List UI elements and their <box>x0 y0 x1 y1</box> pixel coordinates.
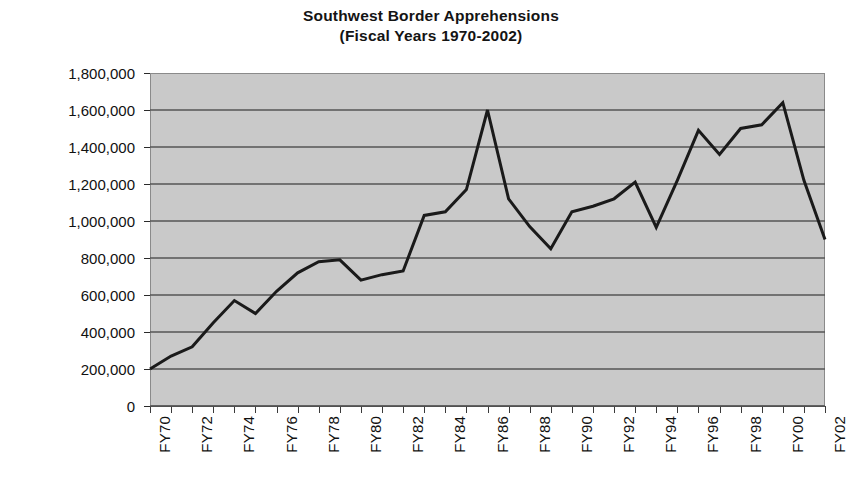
x-axis-tick-mark <box>783 406 784 413</box>
x-axis-tick-mark <box>593 406 594 413</box>
x-axis-tick-label: FY72 <box>198 416 215 453</box>
x-axis-tick-mark <box>466 406 467 413</box>
x-axis-tick-mark <box>424 406 425 413</box>
x-axis-tick-mark <box>382 406 383 413</box>
plot-canvas <box>150 73 825 406</box>
x-axis-tick-label: FY74 <box>240 416 257 453</box>
x-axis-tick-label: FY00 <box>789 416 806 453</box>
x-axis-tick-label: FY90 <box>578 416 595 453</box>
chart-figure: Southwest Border Apprehensions (Fiscal Y… <box>0 0 862 497</box>
x-axis-tick-mark <box>762 406 763 413</box>
x-axis-tick-mark <box>804 406 805 413</box>
x-axis-tick-mark <box>635 406 636 413</box>
x-axis-tick-label: FY80 <box>367 416 384 453</box>
x-axis-tick-mark <box>677 406 678 413</box>
x-axis-tick-mark <box>361 406 362 413</box>
gridlines <box>150 110 825 406</box>
x-axis-tick-mark <box>403 406 404 413</box>
x-axis-tick-label: FY92 <box>620 416 637 453</box>
x-axis-tick-label: FY02 <box>831 416 848 453</box>
x-axis-tick-label: FY88 <box>536 416 553 453</box>
x-axis-tick-mark <box>720 406 721 413</box>
x-axis-tick-mark <box>509 406 510 413</box>
x-axis-tick-mark <box>614 406 615 413</box>
x-axis-tick-mark <box>150 406 151 413</box>
x-axis-tick-mark <box>255 406 256 413</box>
data-series-line <box>150 103 825 369</box>
x-axis-tick-mark <box>698 406 699 413</box>
x-axis-tick-mark <box>825 406 826 413</box>
x-axis-tick-mark <box>234 406 235 413</box>
x-axis-tick-label: FY84 <box>451 416 468 453</box>
x-axis-tick-label: FY76 <box>283 416 300 453</box>
x-axis-tick-mark <box>192 406 193 413</box>
x-axis-tick-mark <box>319 406 320 413</box>
x-axis-tick-mark <box>741 406 742 413</box>
x-axis-tick-label: FY78 <box>325 416 342 453</box>
x-axis-tick-label: FY96 <box>704 416 721 453</box>
x-axis-tick-label: FY86 <box>494 416 511 453</box>
x-axis-tick-mark <box>445 406 446 413</box>
x-axis-tick-label: FY94 <box>662 416 679 453</box>
x-axis-tick-mark <box>213 406 214 413</box>
x-axis-tick-mark <box>298 406 299 413</box>
x-axis-tick-mark <box>488 406 489 413</box>
x-axis-tick-mark <box>551 406 552 413</box>
x-axis-tick-label: FY82 <box>409 416 426 453</box>
x-axis-tick-mark <box>340 406 341 413</box>
x-axis-tick-mark <box>656 406 657 413</box>
x-axis-tick-mark <box>171 406 172 413</box>
x-axis-tick-label: FY98 <box>747 416 764 453</box>
x-axis-tick-mark <box>277 406 278 413</box>
x-axis-tick-mark <box>530 406 531 413</box>
x-axis-tick-mark <box>572 406 573 413</box>
x-axis-tick-label: FY70 <box>156 416 173 453</box>
